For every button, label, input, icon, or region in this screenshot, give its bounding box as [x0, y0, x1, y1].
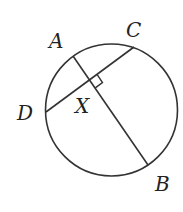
label-c: C — [126, 18, 141, 42]
label-d: D — [16, 101, 33, 125]
chord-diagram: A C D X B — [0, 0, 183, 212]
chord-cd — [46, 47, 134, 112]
label-x: X — [73, 94, 90, 118]
label-b: B — [154, 172, 170, 196]
right-angle-marker — [95, 75, 102, 88]
label-a: A — [47, 29, 63, 53]
